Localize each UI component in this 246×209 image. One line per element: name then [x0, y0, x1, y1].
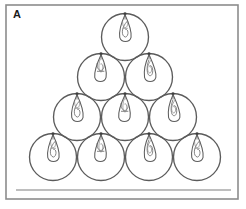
unit-r2-c2: [126, 52, 173, 100]
figure-canvas: [0, 0, 246, 209]
figure-panel-a: A: [0, 0, 246, 209]
unit-r3-c2: [102, 92, 149, 140]
unit-r2-c1: [78, 52, 125, 100]
unit-r1-c1: [102, 12, 149, 60]
unit-r4-c1: [30, 132, 77, 180]
unit-r4-c3: [126, 132, 173, 180]
unit-r3-c1: [54, 92, 101, 140]
unit-r3-c3: [150, 92, 197, 140]
panel-label: A: [13, 9, 21, 20]
unit-r4-c4: [174, 132, 221, 180]
unit-r4-c2: [78, 132, 125, 180]
